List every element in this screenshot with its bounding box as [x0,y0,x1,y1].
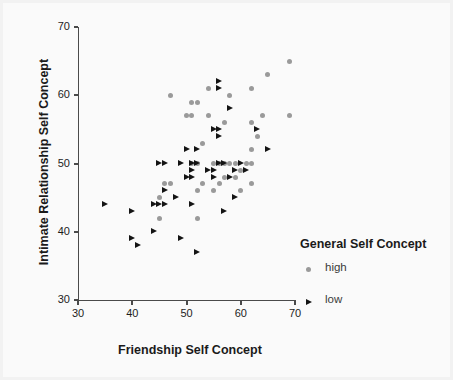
data-point-high [227,93,232,98]
data-point-high [217,181,222,186]
chart-screenshot: 3040506070 3040506070 Friendship Self Co… [0,0,453,380]
data-point-low [151,228,157,234]
y-tick-label: 50 [48,157,70,169]
data-point-low [129,208,135,214]
data-point-low [178,235,184,241]
data-point-high [222,120,227,125]
data-point-low [189,201,195,207]
circle-marker-icon [306,267,311,272]
y-tick-label: 40 [48,225,70,237]
data-point-low [211,167,217,173]
data-point-low [162,160,168,166]
data-point-high [189,100,194,105]
data-point-high [249,120,254,125]
data-point-high [157,216,162,221]
data-point-high [265,72,270,77]
y-tick-label: 30 [48,293,70,305]
data-point-low [189,167,195,173]
y-axis-line [78,27,79,301]
x-tick-label: 40 [119,307,145,319]
data-point-high [249,161,254,166]
data-point-high [168,181,173,186]
data-point-high [168,93,173,98]
legend-entry-label: high [325,261,347,273]
data-point-low [189,174,195,180]
data-point-low [221,160,227,166]
data-point-low [194,160,200,166]
data-point-low [243,167,249,173]
data-point-high [206,113,211,118]
data-point-low [232,167,238,173]
data-point-low [227,174,233,180]
x-tick-label: 60 [228,307,254,319]
data-point-low [216,85,222,91]
data-point-high [195,188,200,193]
data-point-low [194,249,200,255]
data-point-low [232,194,238,200]
y-tick-label: 60 [48,88,70,100]
y-axis-title: Intimate Relationship Self Concept [37,22,51,302]
data-point-high [206,86,211,91]
data-point-low [173,194,179,200]
data-point-low [254,126,260,132]
data-point-low [216,126,222,132]
data-point-high [244,161,249,166]
data-point-low [129,235,135,241]
data-point-low [238,160,244,166]
legend-title: General Self Concept [300,237,450,251]
data-point-low [194,146,200,152]
x-tick-mark [294,301,296,305]
data-point-low [184,146,190,152]
data-point-high [255,134,260,139]
data-point-low [102,201,108,207]
data-point-high [233,175,238,180]
legend-entry-label: low [325,293,342,305]
legend-entry-low[interactable]: low [300,293,450,315]
legend-entries: highlow [300,261,450,315]
y-tick-mark [74,26,78,28]
x-tick-label: 50 [174,307,200,319]
scatter-plot-area: 3040506070 3040506070 Friendship Self Co… [0,0,453,380]
data-point-high [157,195,162,200]
legend-entry-high[interactable]: high [300,261,450,283]
data-point-low [162,187,168,193]
data-point-high [227,161,232,166]
triangle-marker-icon [306,299,312,305]
x-tick-mark [186,301,188,305]
data-point-low [221,208,227,214]
x-tick-mark [240,301,242,305]
data-point-high [189,113,194,118]
data-point-low [216,133,222,139]
data-point-high [211,188,216,193]
data-point-low [162,201,168,207]
data-point-low [178,160,184,166]
data-point-low [211,174,217,180]
data-point-high [200,141,205,146]
data-point-low [227,105,233,111]
x-axis-title: Friendship Self Concept [0,343,380,357]
data-point-low [216,78,222,84]
data-point-high [162,181,167,186]
y-tick-mark [74,163,78,165]
data-point-high [184,113,189,118]
y-tick-mark [74,231,78,233]
data-point-high [287,113,292,118]
data-point-low [265,146,271,152]
data-point-low [135,242,141,248]
y-tick-label: 70 [48,20,70,32]
data-point-high [260,113,265,118]
data-point-high [249,147,254,152]
x-tick-mark [131,301,133,305]
data-point-high [238,188,243,193]
data-point-high [200,181,205,186]
x-tick-mark [77,301,79,305]
legend: General Self Concept highlow [300,237,450,315]
x-tick-label: 30 [65,307,91,319]
data-point-high [287,59,292,64]
data-point-high [249,181,254,186]
y-tick-mark [74,94,78,96]
data-point-high [195,100,200,105]
data-point-high [249,86,254,91]
data-point-high [195,216,200,221]
